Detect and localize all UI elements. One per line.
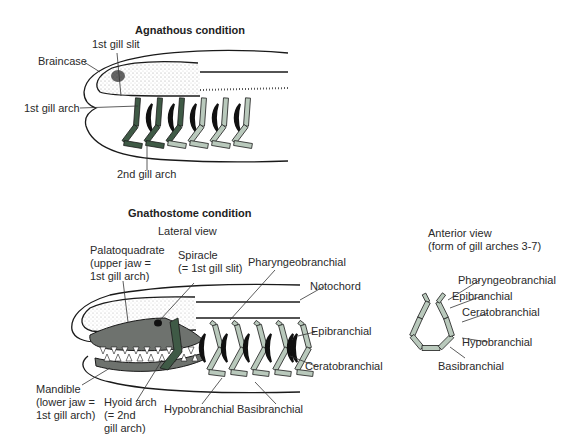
label-second-gill-arch: 2nd gill arch [117,168,176,181]
mandible-shape [95,354,203,371]
hypobranchial-segment [231,370,248,377]
agnathous-first-gill-slit [111,70,125,82]
ceratobranchial-segment [273,347,289,371]
lower-tooth [137,354,143,361]
agnathous-gill-arches [122,98,252,149]
lateral-view-label: Lateral view [158,225,217,238]
gill-arch-ventral-segment [168,141,187,149]
gill-slit [222,334,227,362]
label-anterior-ceratobranchial: Ceratobranchial [462,306,540,319]
hypobranchial-segment [253,370,270,377]
label-anterior-epibranchial: Epibranchial [452,290,513,303]
anterior-ceratobranchial-left [410,317,423,337]
agnathous-dorsal-stipple [200,88,288,90]
gill-slit [191,104,196,132]
hypobranchial-segment [209,370,226,377]
hypobranchial-segment [275,370,292,377]
gill-arch-upper-segment [244,98,251,126]
gill-slit [169,104,174,132]
gnathostome-title: Gnathostome condition [128,207,251,219]
anterior-ceratobranchial-right [444,317,455,337]
label-ceratobranchial: Ceratobranchial [305,360,383,373]
anterior-gill-arch [410,293,455,351]
label-first-gill-slit: 1st gill slit [92,38,140,51]
anterior-pharyngeobranchial-right [436,293,445,303]
label-anterior-basibranchial: Basibranchial [438,360,504,373]
gill-arch-upper-segment [200,98,207,126]
anterior-basibranchial [422,346,440,351]
jaw-teeth [100,347,198,361]
upper-tooth [111,347,117,354]
gill-arch-upper-segment [178,98,185,126]
lower-tooth [148,354,154,361]
label-hyoid-arch: Hyoid arch (= 2nd gill arch) [104,396,157,435]
label-braincase: Braincase [38,55,87,68]
ceratobranchial-segment [251,347,267,371]
upper-tooth [100,347,106,354]
gill-slit [266,334,271,362]
lower-tooth [115,354,121,361]
label-notochord: Notochord [310,280,361,293]
gill-slit [147,104,152,132]
ceratobranchial-segment [229,347,245,371]
spiracle-opening [154,320,162,327]
label-epibranchial: Epibranchial [311,325,372,338]
anterior-epibranchial-left [418,301,430,319]
label-pharyngeobranchial: Pharyngeobranchial [248,256,346,269]
gill-arch-ventral-segment [190,141,209,149]
gill-arch-ventral-segment [212,141,231,149]
label-hypobranchial: Hypobranchial [164,403,234,416]
gill-arch-ventral-segment [234,141,253,149]
gill-arch-upper-segment [222,98,229,126]
lower-tooth [159,354,165,361]
anterior-view-title: Anterior view (form of gill arches 3-7) [428,227,541,253]
lower-tooth [126,354,132,361]
label-palatoquadrate: Palatoquadrate (upper jaw = 1st gill arc… [90,244,165,283]
ceratobranchial-segment [207,347,223,371]
gill-slit [213,104,218,132]
lower-tooth [104,354,110,361]
agnathous-title: Agnathous condition [135,24,245,36]
gnathostome-gill-arches [200,320,314,376]
label-anterior-pharyngeobranchial: Pharyngeobranchial [458,274,556,287]
gill-slit [244,334,249,362]
upper-tooth [188,347,194,354]
gill-arch-ventral-segment [146,141,165,149]
label-spiracle: Spiracle (= 1st gill slit) [178,249,243,275]
epibranchial-segment [301,324,312,348]
label-anterior-hypobranchial: Hypobranchial [462,336,532,349]
gill-slit [235,104,240,132]
label-first-gill-arch: 1st gill arch [24,102,80,115]
upper-tooth [166,347,172,354]
gill-arch-upper-segment [134,98,141,126]
label-mandible: Mandible (lower jaw = 1st gill arch) [36,383,95,422]
label-basibranchial: Basibranchial [237,403,303,416]
gill-arch-ventral-segment [124,141,143,149]
anterior-epibranchial-right [436,301,448,319]
gill-arch-upper-segment [156,98,163,126]
